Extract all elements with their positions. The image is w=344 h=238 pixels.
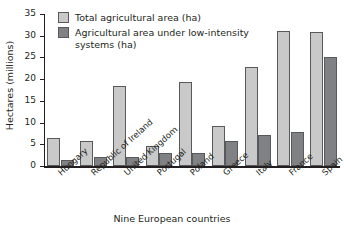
legend-label-total-agricultural-area: Total agricultural area (ha) <box>75 12 201 24</box>
legend-label-low-intensity-area: Agricultural area under low-intensity sy… <box>75 27 249 51</box>
y-tick-label: 20 <box>14 74 36 83</box>
y-tick-label: 30 <box>14 31 36 40</box>
chart-legend: Total agricultural area (ha) Agricultura… <box>58 12 249 54</box>
bar-spain-series-1 <box>310 32 323 166</box>
y-axis-title-wrapper: Hectares (millions) <box>0 14 14 166</box>
bar-chart: Hectares (millions) 05101520253035 Hunga… <box>0 0 344 238</box>
legend-swatch-dark-icon <box>58 27 69 38</box>
legend-swatch-light-icon <box>58 12 69 23</box>
y-tick-label: 5 <box>14 139 36 148</box>
legend-item-total-agricultural-area: Total agricultural area (ha) <box>58 12 249 24</box>
legend-item-low-intensity-area: Agricultural area under low-intensity sy… <box>58 27 249 51</box>
y-tick-label: 15 <box>14 96 36 105</box>
bar-italy-series-1 <box>245 67 258 166</box>
y-tick-label: 35 <box>14 9 36 18</box>
y-axis-title: Hectares (millions) <box>4 31 15 141</box>
caption-sliver <box>10 232 334 238</box>
bar-spain-series-2 <box>324 57 337 166</box>
bar-france-series-1 <box>277 31 290 166</box>
y-tick-label: 10 <box>14 118 36 127</box>
bar-hungary-series-1 <box>47 138 60 166</box>
y-tick-label: 25 <box>14 52 36 61</box>
x-axis-title: Nine European countries <box>0 213 344 224</box>
y-tick-label: 0 <box>14 161 36 170</box>
